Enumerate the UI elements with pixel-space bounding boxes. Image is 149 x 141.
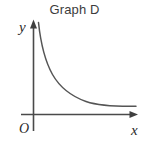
graph-figure: Graph D y x O bbox=[0, 0, 149, 141]
x-axis-label: x bbox=[130, 122, 138, 138]
curve-path bbox=[39, 23, 137, 107]
y-axis-arrow-icon bbox=[30, 20, 37, 29]
y-axis-label: y bbox=[17, 19, 26, 35]
plot-area: y x O bbox=[0, 0, 149, 141]
origin-label: O bbox=[19, 121, 29, 136]
x-axis-arrow-icon bbox=[130, 111, 139, 118]
